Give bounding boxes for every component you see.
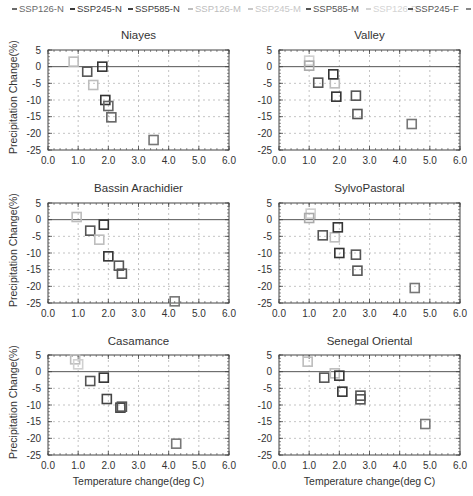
y-tick-label: 0: [266, 366, 272, 377]
x-tick-label: 1.0: [302, 460, 316, 471]
x-tick-label: 4.0: [393, 460, 407, 471]
x-axis-label: Temperature change(deg C): [304, 475, 435, 487]
x-tick-label: 0.0: [272, 460, 286, 471]
y-tick-label: -15: [258, 416, 273, 427]
y-tick-label: -10: [258, 400, 273, 411]
y-tick-label: 5: [266, 350, 272, 361]
data-point-square-icon: [356, 391, 365, 400]
y-tick-label: -5: [263, 383, 272, 394]
y-tick-label: -20: [258, 433, 273, 444]
x-tick-label: 5.0: [423, 460, 437, 471]
x-tick-label: 2.0: [332, 460, 346, 471]
data-point-square-icon: [320, 373, 329, 382]
data-point-square-icon: [421, 420, 430, 429]
plot-area: 0.01.02.03.04.05.06.050-5-10-15-20-25: [0, 0, 473, 496]
data-point-square-icon: [303, 357, 312, 366]
y-tick-label: -25: [258, 450, 273, 461]
x-tick-label: 3.0: [363, 460, 377, 471]
data-point-square-icon: [356, 395, 365, 404]
x-tick-label: 6.0: [453, 460, 467, 471]
